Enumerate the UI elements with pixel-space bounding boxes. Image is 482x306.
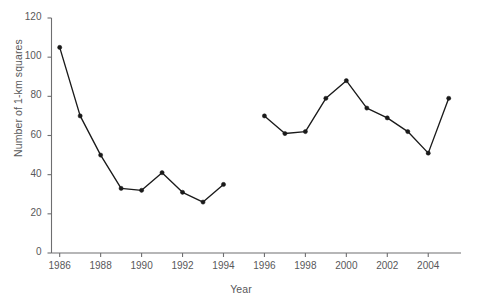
x-axis-tick-label: 2000 <box>326 260 366 271</box>
data-point-marker <box>221 182 225 186</box>
y-axis-tick-label: 120 <box>16 11 42 22</box>
y-axis-tick-label: 80 <box>16 89 42 100</box>
data-point-marker <box>58 45 62 49</box>
data-point-marker <box>119 186 123 190</box>
data-point-marker <box>139 188 143 192</box>
data-point-marker <box>78 114 82 118</box>
y-axis-tick-label: 100 <box>16 50 42 61</box>
line-chart: Number of 1-km squares Year 020406080100… <box>0 0 482 306</box>
data-point-marker <box>262 114 266 118</box>
data-point-marker <box>283 131 287 135</box>
y-axis-tick-label: 40 <box>16 168 42 179</box>
data-point-marker <box>180 190 184 194</box>
data-point-marker <box>99 153 103 157</box>
data-point-marker <box>447 96 451 100</box>
data-point-marker <box>324 96 328 100</box>
data-point-marker <box>344 79 348 83</box>
x-axis-title: Year <box>0 283 482 295</box>
data-point-marker <box>201 200 205 204</box>
data-point-marker <box>426 151 430 155</box>
x-axis-tick-label: 1990 <box>122 260 162 271</box>
x-axis-tick-label: 1986 <box>40 260 80 271</box>
x-axis-tick-label: 1992 <box>163 260 203 271</box>
x-axis-tick-label: 1996 <box>244 260 284 271</box>
y-axis-tick-label: 0 <box>16 246 42 257</box>
data-line-segment-1 <box>60 47 224 202</box>
x-axis-tick-label: 2002 <box>367 260 407 271</box>
y-axis-tick-label: 20 <box>16 207 42 218</box>
data-point-marker <box>303 129 307 133</box>
x-axis-tick-label: 1994 <box>203 260 243 271</box>
data-point-marker <box>406 129 410 133</box>
x-axis-tick-label: 2004 <box>408 260 448 271</box>
data-point-marker <box>365 106 369 110</box>
data-point-marker <box>385 116 389 120</box>
y-axis-tick-label: 60 <box>16 129 42 140</box>
x-axis-tick-label: 1988 <box>81 260 121 271</box>
data-line-segment-2 <box>264 81 448 153</box>
x-axis-tick-label: 1998 <box>285 260 325 271</box>
data-point-marker <box>160 171 164 175</box>
